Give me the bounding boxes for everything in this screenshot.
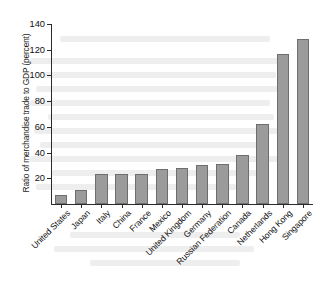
x-axis-labels: United StatesJapanItalyChinaFranceMexico… (51, 208, 323, 295)
y-tick-label: 100 (29, 70, 45, 80)
y-axis-line (51, 24, 52, 205)
bar (277, 54, 289, 204)
x-label-text: United States (29, 208, 72, 251)
y-tick-label: 40 (35, 148, 45, 158)
y-tick-mark (47, 75, 51, 76)
y-axis-title: Ratio of merchandise trade to GDP (perce… (21, 13, 31, 213)
y-tick-mark (47, 50, 51, 51)
bar-chart: Ratio of merchandise trade to GDP (perce… (0, 0, 323, 295)
y-tick-mark (47, 24, 51, 25)
y-tick-label: 140 (29, 19, 45, 29)
y-tick-mark (47, 178, 51, 179)
plot-area: 20406080100120140 (51, 24, 313, 204)
bar (55, 195, 67, 204)
y-tick-mark (47, 101, 51, 102)
y-tick-mark (47, 127, 51, 128)
y-tick-mark (47, 153, 51, 154)
y-tick-label: 60 (35, 122, 45, 132)
y-tick-label: 20 (35, 173, 45, 183)
y-tick-label: 120 (29, 45, 45, 55)
y-tick-label: 80 (35, 96, 45, 106)
